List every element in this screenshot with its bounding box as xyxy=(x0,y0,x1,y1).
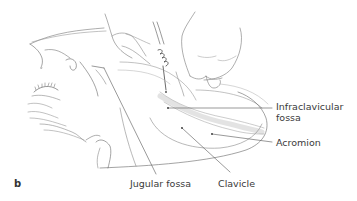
label-infraclavicular-line1: Infraclavicular xyxy=(276,101,343,112)
anatomical-illustration: Infraclavicular fossa Acromion Jugular f… xyxy=(0,0,357,201)
panel-letter: b xyxy=(14,178,21,189)
label-jugular-fossa: Jugular fossa xyxy=(130,178,191,189)
leader-line-clavicle xyxy=(182,128,230,172)
leader-line-jugular-fossa xyxy=(104,68,156,174)
label-infraclavicular-line2: fossa xyxy=(276,112,343,123)
label-clavicle: Clavicle xyxy=(218,178,255,189)
label-infraclavicular-fossa: Infraclavicular fossa xyxy=(276,101,343,123)
label-acromion: Acromion xyxy=(276,137,321,148)
